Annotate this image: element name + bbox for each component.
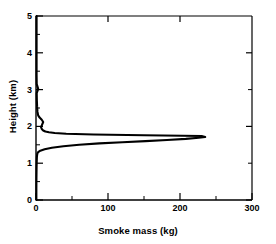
y-axis-right-ticks [246,53,252,200]
y-tick-label-5: 5 [14,11,32,21]
x-axis-title: Smoke mass (kg) [0,225,276,236]
x-tick-label-200: 200 [165,203,195,213]
smoke-mass-curve [36,16,205,200]
y-axis-title: Height (km) [7,62,18,152]
y-tick-label-1: 1 [14,158,32,168]
x-axis-top-ticks [108,16,180,22]
x-tick-label-100: 100 [93,203,123,213]
x-tick-label-300: 300 [237,203,267,213]
axis-lines [36,16,252,200]
x-tick-label-0: 0 [21,203,51,213]
smoke-mass-height-chart: 5 4 3 2 1 0 0 100 200 300 Smoke mass (kg… [0,0,276,244]
y-tick-label-4: 4 [14,48,32,58]
